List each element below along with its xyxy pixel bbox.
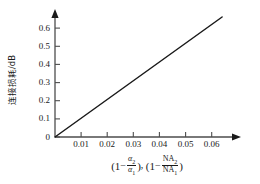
x-axis-title-comma: , [141,159,144,170]
na-den-subscript: 1 [174,170,177,176]
x-axis-title-alpha-denominator: α1 [127,166,136,176]
x-axis-arrowhead [232,134,241,141]
y-tick-label-3: 0.3 [24,78,50,87]
y-tick-label-5: 0.5 [24,42,50,51]
na-den-symbol: NA [163,165,175,174]
x-axis-title: (1−α2α1), (1−NA2NA1) [52,155,242,177]
y-tick-label-6: 0.6 [24,24,50,33]
y-axis-ticks [55,28,60,137]
x-axis-title-minus-1: − [120,160,126,171]
y-tick-label-1: 0.1 [24,114,50,123]
x-tick-label-5: 0.06 [197,140,227,149]
y-tick-label-0: 0 [24,133,50,142]
alpha-den-subscript: 1 [132,170,135,176]
na-num-subscript: 2 [174,158,177,164]
x-axis-title-open-paren-1: (1 [111,160,120,172]
y-tick-label-2: 0.2 [24,96,50,105]
data-series-line [55,17,222,137]
x-axis-title-na-denominator: NA1 [162,166,179,176]
x-axis-title-alpha-numerator: α2 [127,155,136,166]
x-axis-title-minus-2: − [155,160,161,171]
x-axis-title-fraction-alpha: α2α1 [127,155,136,177]
y-axis-arrowhead [51,9,58,18]
x-axis-title-open-paren-2: (1 [146,160,155,172]
alpha-num-subscript: 2 [132,158,135,164]
x-axis-title-close-paren-2: ) [179,160,183,172]
y-tick-label-4: 0.4 [24,60,50,69]
x-axis-ticks [81,132,212,137]
chart-figure: 0 0.1 0.2 0.3 0.4 0.5 0.6 0.01 0.02 0.03… [0,0,260,184]
x-axis-title-na-numerator: NA2 [162,155,179,166]
y-axis-title: 连接损耗/dB [5,38,17,122]
x-axis-title-fraction-na: NA2NA1 [162,155,179,177]
na-num-symbol: NA [163,154,175,163]
